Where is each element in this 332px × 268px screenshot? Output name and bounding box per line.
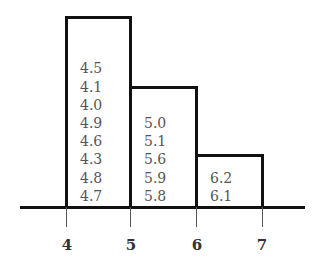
bar-4-5: 4.5 4.1 4.0 4.9 4.6 4.3 4.8 4.7 xyxy=(65,16,132,207)
data-value: 4.3 xyxy=(80,150,102,168)
data-value: 4.9 xyxy=(80,114,102,132)
data-value: 4.8 xyxy=(80,169,102,187)
bar-6-7: 6.2 6.1 xyxy=(195,154,264,207)
data-value: 4.0 xyxy=(80,96,102,114)
data-value: 5.1 xyxy=(144,132,166,150)
x-tick xyxy=(262,207,263,227)
x-tick xyxy=(196,207,197,227)
data-value: 4.7 xyxy=(80,187,102,205)
data-value: 5.6 xyxy=(144,150,166,168)
data-value: 6.1 xyxy=(210,187,232,205)
bar-values: 6.2 6.1 xyxy=(198,169,261,205)
data-value: 5.9 xyxy=(144,169,166,187)
data-value: 6.2 xyxy=(210,169,232,187)
bar-5-6: 5.0 5.1 5.6 5.9 5.8 xyxy=(129,86,198,207)
data-value: 4.1 xyxy=(80,78,102,96)
x-tick xyxy=(130,207,131,227)
bar-values: 5.0 5.1 5.6 5.9 5.8 xyxy=(132,114,195,205)
data-value: 4.6 xyxy=(80,132,102,150)
data-value: 4.5 xyxy=(80,59,102,77)
x-tick-label: 4 xyxy=(57,236,77,254)
x-tick xyxy=(66,207,67,227)
bar-values: 4.5 4.1 4.0 4.9 4.6 4.3 4.8 4.7 xyxy=(68,59,129,205)
x-tick-label: 6 xyxy=(187,236,207,254)
x-tick-label: 7 xyxy=(252,236,272,254)
data-value: 5.0 xyxy=(144,114,166,132)
x-tick-label: 5 xyxy=(121,236,141,254)
data-value: 5.8 xyxy=(144,187,166,205)
